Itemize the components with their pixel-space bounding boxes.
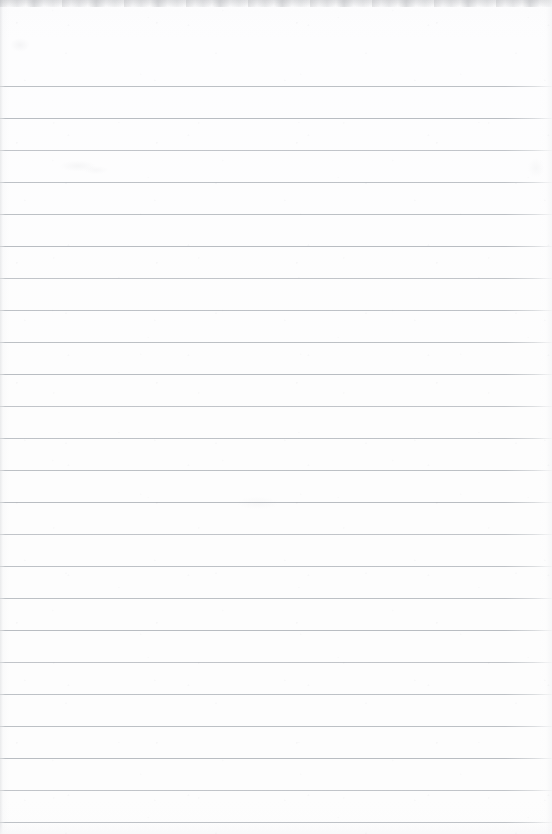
- page-content-text: [0, 86, 552, 834]
- notepad-page: [0, 0, 552, 834]
